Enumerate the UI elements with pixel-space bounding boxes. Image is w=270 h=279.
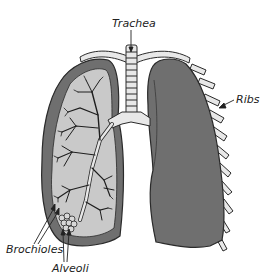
alveoli-label: Alveoli	[52, 263, 89, 274]
ribs-label: Ribs	[236, 94, 259, 105]
lungs-diagram	[0, 0, 270, 279]
brochioles-label: Brochioles	[6, 244, 63, 255]
trachea-label: Trachea	[112, 18, 156, 29]
